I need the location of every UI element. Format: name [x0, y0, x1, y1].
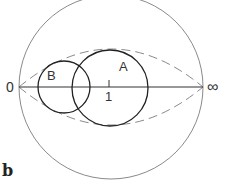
diagram: 0 ∞ B A 1 b	[0, 0, 228, 195]
label-zero: 0	[6, 80, 14, 94]
label-circle-b: B	[47, 69, 56, 82]
circle-a	[72, 50, 148, 126]
label-infinity: ∞	[207, 79, 218, 95]
diagram-canvas	[0, 0, 228, 195]
label-unit: 1	[105, 90, 112, 103]
panel-label: b	[2, 163, 13, 179]
label-circle-a: A	[119, 60, 128, 73]
